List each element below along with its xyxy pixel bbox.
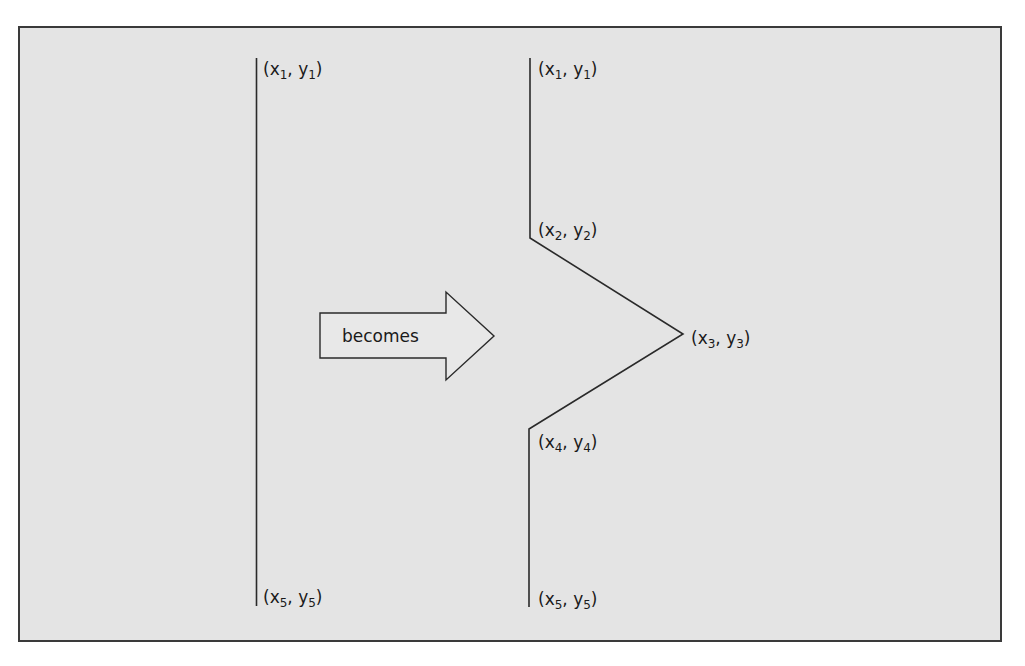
left-point-5-label: (x5, y5) [263, 589, 323, 606]
left-point-1-label: (x1, y1) [263, 61, 323, 78]
diagram-canvas [0, 0, 1025, 666]
right-point-4-label: (x4, y4) [538, 434, 598, 451]
right-point-5-label: (x5, y5) [538, 591, 598, 608]
arrow-label: becomes [342, 328, 419, 345]
right-point-1-label: (x1, y1) [538, 61, 598, 78]
right-point-2-label: (x2, y2) [538, 222, 598, 239]
right-bent-line [529, 58, 683, 607]
right-point-3-label: (x3, y3) [691, 330, 751, 347]
